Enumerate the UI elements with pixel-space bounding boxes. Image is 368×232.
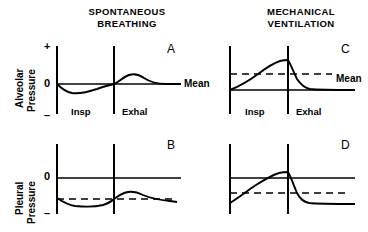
panel-a-group xyxy=(57,46,181,114)
figure-root: SPONTANEOUS BREATHING MECHANICAL VENTILA… xyxy=(0,0,368,232)
waveform-canvas xyxy=(0,0,368,232)
panel-c-group xyxy=(230,46,355,114)
panel-c-waveform xyxy=(230,60,355,90)
panel-d-group xyxy=(230,144,355,214)
panel-b-group xyxy=(57,144,181,214)
panel-d-waveform xyxy=(230,172,355,204)
